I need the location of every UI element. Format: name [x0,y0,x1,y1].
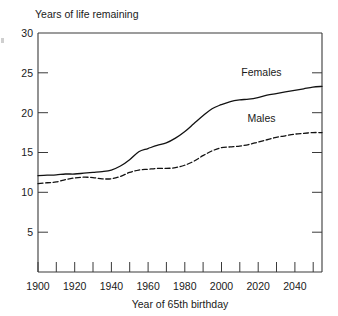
y-tick-label-15: 15 [21,146,33,158]
x-axis-title: Year of 65th birthday [132,298,229,310]
y-axis-title: Years of life remaining [35,8,139,20]
x-tick-label-1940: 1940 [100,280,124,292]
x-tick-label-2000: 2000 [210,280,234,292]
y-tick-label-20: 20 [21,107,33,119]
page-edge-artifact [1,38,4,43]
series-line-females [38,86,322,175]
y-tick-label-10: 10 [21,186,33,198]
x-tick-label-1920: 1920 [63,280,87,292]
series-annotation-females: Females [241,66,281,78]
x-axis-ticks [38,262,313,272]
y-axis-ticks [38,73,322,272]
x-tick-label-1960: 1960 [136,280,160,292]
x-tick-label-2040: 2040 [283,280,307,292]
life-expectancy-line-chart: Years of life remaining 30 25 20 15 10 [0,0,338,316]
y-axis-tick-labels: 30 25 20 15 10 5 [21,27,33,238]
y-tick-label-30: 30 [21,27,33,39]
x-tick-label-1980: 1980 [173,280,197,292]
x-tick-label-1900: 1900 [26,280,50,292]
x-tick-label-2020: 2020 [247,280,271,292]
series-line-males [38,133,322,184]
y-tick-label-5: 5 [27,226,33,238]
x-axis-tick-labels: 1900 1920 1940 1960 1980 2000 2020 2040 [26,280,306,292]
chart-container: Years of life remaining 30 25 20 15 10 [0,0,338,316]
series-annotation-males: Males [247,112,275,124]
y-tick-label-25: 25 [21,67,33,79]
